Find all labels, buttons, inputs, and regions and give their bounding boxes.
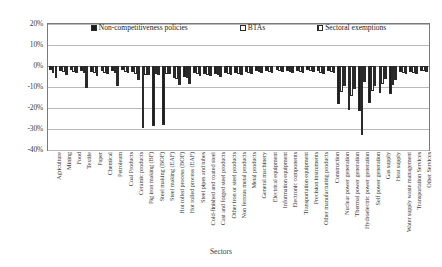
bar-group <box>245 24 253 150</box>
x-axis-tick-label: Steel pipes and tubes <box>200 152 207 203</box>
bar <box>178 66 181 85</box>
bar-group <box>317 24 325 150</box>
bar <box>188 66 191 84</box>
x-axis-tick-label: Mining <box>66 152 73 170</box>
x-axis-tick-label: Hot rolled process (BOF) <box>179 152 186 214</box>
x-axis-tick-label-text: Cold-finished and coated steel <box>210 152 217 225</box>
bar <box>271 66 274 73</box>
x-axis-tick-label-text: Heat supply <box>395 152 402 181</box>
bar-group <box>379 24 387 150</box>
bar-group <box>193 24 201 150</box>
bar <box>312 66 315 72</box>
x-axis-tick-label-text: Hydroelectric power generation <box>364 152 371 229</box>
bar-group <box>368 24 376 150</box>
x-axis-tick-label: Other iron or steel products <box>231 152 238 218</box>
x-axis-tick-label-text: Transportation Services <box>416 152 423 209</box>
x-axis-tick-label: Water supply waste management <box>406 152 413 232</box>
bar-group <box>286 24 294 150</box>
bar <box>127 66 130 73</box>
x-axis-tick-label-text: Coal Products <box>128 152 135 186</box>
bar-group <box>306 24 314 150</box>
bar <box>374 66 377 86</box>
bar-group <box>358 24 366 150</box>
bar <box>291 66 294 73</box>
x-axis-tick-label-text: Chemical <box>107 152 114 175</box>
x-axis-tick-label: Construction <box>334 152 341 183</box>
x-axis-tick-label: Transportation Services <box>416 152 423 209</box>
bars-layer <box>48 24 429 150</box>
bar-group <box>90 24 98 150</box>
bar <box>147 66 150 75</box>
bar-group <box>121 24 129 150</box>
bar <box>65 66 68 75</box>
bar-group <box>276 24 284 150</box>
bar <box>219 66 222 77</box>
x-axis-tick-label-text: Ceramic products <box>138 152 145 195</box>
x-axis-tick-label: Self power generation <box>375 152 382 206</box>
x-axis-tick-label-text: Transportation equipment <box>303 152 310 215</box>
x-axis-tick-label: Coal Products <box>128 152 135 186</box>
x-axis-tick-label-text: Hot rolled process (EAF) <box>189 152 196 213</box>
bar <box>363 66 366 82</box>
x-axis-tick-label-text: Mining <box>66 152 73 170</box>
x-axis-tick-label-text: Hot rolled process (BOF) <box>179 152 186 214</box>
bar-group <box>409 24 417 150</box>
x-axis-tick-label: General machinery <box>261 152 268 198</box>
x-axis-tick-label-text: Petroleum <box>117 152 124 177</box>
x-axis-tick-label-text: Pig iron making (BF) <box>148 152 155 204</box>
bar <box>394 66 397 80</box>
x-axis-tick-label-text: Non ferrous metal products <box>241 152 248 218</box>
bar <box>162 66 165 125</box>
bar <box>353 66 356 89</box>
bar <box>116 66 119 86</box>
x-axis-tick-label: Textile <box>86 152 93 169</box>
x-axis-tick-label: Gas supply <box>385 152 392 179</box>
x-axis-tick-label-text: Precision instruments <box>313 152 320 204</box>
x-axis-tick-label: Electrical equipment <box>272 152 279 202</box>
x-axis-tick-label: Other Services <box>426 152 433 188</box>
y-axis-tick-label: -20% <box>3 104 43 112</box>
x-axis-tick-label: Chemical <box>107 152 114 175</box>
bar <box>281 66 284 72</box>
bar-group <box>80 24 88 150</box>
x-axis-tick-label: Other manufacturing products <box>323 152 330 225</box>
x-axis-tick-label-text: Steel pipes and tubes <box>200 152 207 203</box>
x-axis-tick-label: Food <box>76 152 83 165</box>
bar-group <box>265 24 273 150</box>
x-axis-tick-label: Thermal power generation <box>354 152 361 216</box>
x-axis-tick-label-text: Other iron or steel products <box>231 152 238 218</box>
x-axis-tick-label-text: Cast and forged steel products <box>220 152 227 225</box>
bar <box>322 66 325 74</box>
y-axis-tick-label: -40% <box>3 146 43 154</box>
x-axis-tick-label: Nuclear power generation <box>344 152 351 215</box>
bar-group <box>327 24 335 150</box>
x-axis-tick-label: Non ferrous metal products <box>241 152 248 218</box>
x-axis-tick-label-text: General machinery <box>261 152 268 198</box>
bar <box>152 66 155 126</box>
bar <box>405 66 408 74</box>
x-axis-tick-label: Paper <box>97 152 104 166</box>
x-axis-tick-label: Petroleum <box>117 152 124 177</box>
x-axis-tick-label: Hydroelectric power generation <box>364 152 371 229</box>
x-axis-tick-labels: AgricultureMiningFoodTextilePaperChemica… <box>48 152 429 244</box>
bar <box>142 66 145 128</box>
y-axis-tick-label: 20% <box>3 20 43 28</box>
x-axis-tick-label-text: Steel making (BOF) <box>159 152 166 201</box>
bar <box>415 66 418 74</box>
x-axis-tick-label-text: Textile <box>86 152 93 169</box>
x-axis-tick-label: Heat supply <box>395 152 402 181</box>
bar-group <box>203 24 211 150</box>
bar-group <box>389 24 397 150</box>
x-axis-tick-label-text: Other manufacturing products <box>323 152 330 225</box>
x-axis-tick-label-text: Food <box>76 152 83 165</box>
bar <box>240 66 243 75</box>
x-axis-tick-label-text: Self power generation <box>375 152 382 206</box>
bar-group <box>255 24 263 150</box>
x-axis-tick-label-text: Electronic components <box>292 152 299 208</box>
y-axis-tick-label: -30% <box>3 125 43 133</box>
x-axis-tick-label: Cast and forged steel products <box>220 152 227 225</box>
bar <box>157 66 160 75</box>
bar <box>75 66 78 73</box>
x-axis-tick-label: Agriculture <box>56 152 63 180</box>
bar <box>96 66 99 76</box>
